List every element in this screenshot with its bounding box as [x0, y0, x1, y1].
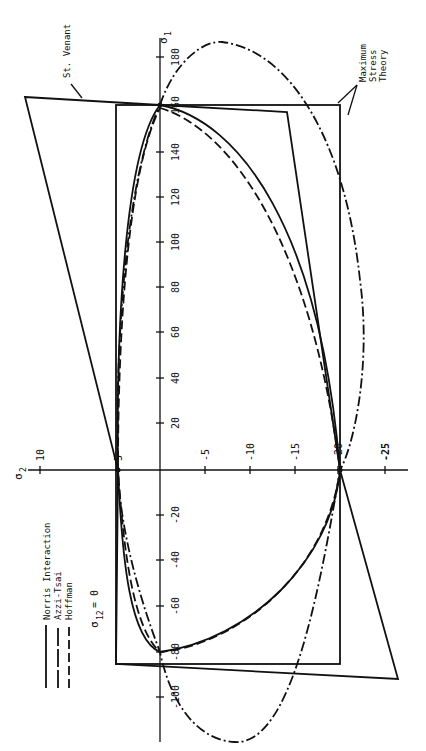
svg-text:20: 20: [170, 417, 181, 429]
svg-text:-80: -80: [170, 643, 181, 661]
sigma2-axis-title: σ 2: [12, 467, 28, 480]
max-stress-label: Maximum Stress Theory: [358, 44, 388, 82]
svg-text:12: 12: [96, 610, 105, 620]
svg-text:-40: -40: [170, 551, 181, 569]
svg-text:60: 60: [170, 326, 181, 338]
norris-interaction-curve: [118, 105, 340, 652]
svg-text:-25: -25: [380, 443, 391, 461]
svg-text:-5: -5: [200, 449, 211, 461]
svg-text:σ: σ: [88, 621, 101, 628]
failure-envelope-chart: σ 1 σ 2 180 160 140 120 100 80 60 40 20 …: [0, 0, 426, 751]
svg-text:Norris Interaction: Norris Interaction: [42, 522, 52, 620]
svg-text:σ: σ: [12, 473, 25, 480]
max-stress-envelope: [116, 105, 340, 664]
svg-text:Azzi-Tsai: Azzi-Tsai: [53, 571, 63, 620]
svg-text:Hoffman: Hoffman: [64, 582, 74, 620]
svg-text:Theory: Theory: [378, 49, 388, 82]
svg-text:σ: σ: [157, 37, 170, 44]
svg-text:140: 140: [170, 143, 181, 161]
svg-text:40: 40: [170, 372, 181, 384]
svg-text:100: 100: [170, 233, 181, 251]
svg-text:2: 2: [19, 467, 28, 472]
sigma1-tick-labels: 180 160 140 120 100 80 60 40 20 -20 -40 …: [170, 48, 181, 709]
svg-text:-20: -20: [170, 506, 181, 524]
intercept-dot-left: [116, 468, 121, 473]
svg-text:80: 80: [170, 281, 181, 293]
svg-text:10: 10: [35, 449, 46, 461]
intercept-dot-top: [158, 103, 163, 108]
azzi-tsai-curve: [118, 108, 340, 652]
svg-text:-15: -15: [290, 443, 301, 461]
svg-text:Stress: Stress: [368, 49, 378, 82]
svg-text:= 0: = 0: [89, 590, 100, 608]
svg-text:Maximum: Maximum: [358, 44, 368, 82]
legend: Norris Interaction Azzi-Tsai Hoffman: [42, 522, 74, 688]
st-venant-label: St. Venant: [62, 24, 72, 78]
axes: [28, 38, 408, 742]
svg-text:1: 1: [164, 31, 173, 36]
sigma1-axis-title: σ 1: [157, 31, 173, 44]
st-venant-leader: [71, 84, 82, 98]
svg-text:180: 180: [170, 48, 181, 66]
svg-text:-60: -60: [170, 597, 181, 615]
svg-text:-10: -10: [245, 443, 256, 461]
intercept-dot-right: [338, 468, 343, 473]
svg-text:120: 120: [170, 188, 181, 206]
shear-annotation: σ 12 = 0: [88, 590, 105, 628]
